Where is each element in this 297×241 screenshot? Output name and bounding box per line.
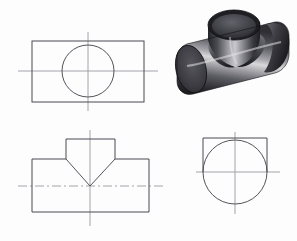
top-view bbox=[18, 32, 168, 118]
front-view-intersection-line-right bbox=[90, 159, 115, 186]
front-view bbox=[18, 130, 168, 230]
side-view bbox=[196, 132, 288, 224]
front-view-tee-outline bbox=[32, 139, 149, 212]
pictorial-view bbox=[163, 6, 295, 118]
side-view-svg bbox=[196, 132, 288, 224]
pictorial-branch-bore bbox=[212, 14, 256, 38]
drawing-sheet bbox=[0, 0, 297, 241]
front-view-intersection-line-left bbox=[66, 159, 90, 186]
front-view-svg bbox=[18, 130, 168, 230]
pictorial-view-svg bbox=[163, 6, 295, 118]
top-view-svg bbox=[18, 32, 168, 118]
